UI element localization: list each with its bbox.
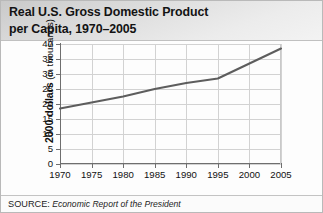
x-tick-label-1970: 1970 xyxy=(43,170,77,180)
source-reference: Economic Report of the President xyxy=(52,199,181,209)
y-tick-label-35: 35 xyxy=(31,54,53,64)
y-tick-label-10: 10 xyxy=(31,129,53,139)
x-tick-label-1995: 1995 xyxy=(201,170,235,180)
x-tick-label-1990: 1990 xyxy=(169,170,203,180)
y-tick-label-15: 15 xyxy=(31,114,53,124)
chart-title-line-2: per Capita, 1970–2005 xyxy=(9,22,136,36)
y-tick-label-0: 0 xyxy=(31,159,53,169)
y-tick-label-25: 25 xyxy=(31,84,53,94)
gridline-y-0 xyxy=(60,164,281,165)
axes-box xyxy=(60,44,281,164)
x-tick-label-2005: 2005 xyxy=(264,170,298,180)
source-bar: SOURCE: Economic Report of the President xyxy=(1,195,323,212)
page-title: Real U.S. Gross Domestic Product per Cap… xyxy=(9,4,208,37)
gridline-x-2005 xyxy=(281,44,282,164)
chart-title-line-1: Real U.S. Gross Domestic Product xyxy=(9,5,208,19)
x-tick-label-2000: 2000 xyxy=(232,170,266,180)
series-line-gdp-per-capita xyxy=(60,44,281,164)
source-note: SOURCE: Economic Report of the President xyxy=(8,199,181,209)
x-tick-label-1985: 1985 xyxy=(138,170,172,180)
x-tick-label-1980: 1980 xyxy=(106,170,140,180)
y-tick-label-5: 5 xyxy=(31,144,53,154)
x-tick-label-1975: 1975 xyxy=(75,170,109,180)
y-tick-label-40: 40 xyxy=(31,39,53,49)
y-tick-label-30: 30 xyxy=(31,69,53,79)
chart-figure: Real U.S. Gross Domestic Product per Cap… xyxy=(0,0,323,213)
source-label: SOURCE: xyxy=(8,199,50,209)
y-tick-label-20: 20 xyxy=(31,99,53,109)
plot-area: 2000 dollars (in thousands) 051015202530… xyxy=(1,41,323,196)
